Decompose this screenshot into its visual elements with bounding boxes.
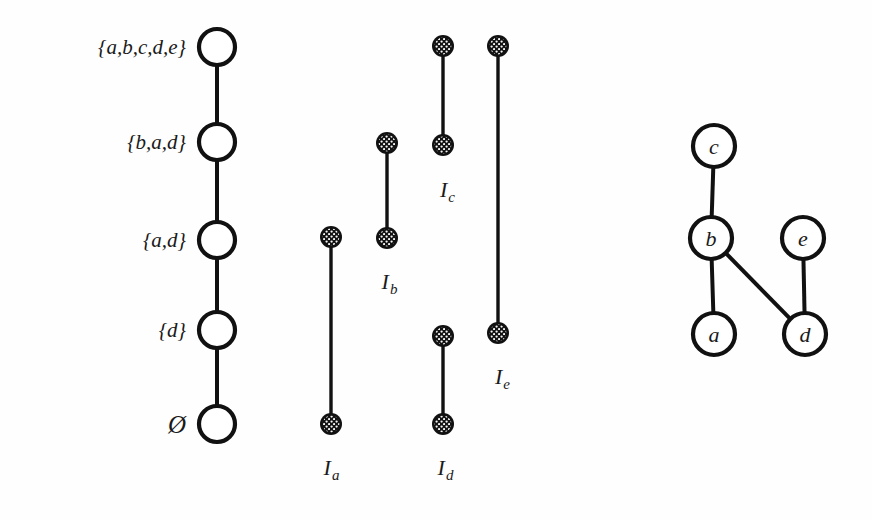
chain-node-label: {a,d}	[143, 230, 186, 251]
interval-endpoint-dot-texture	[323, 416, 340, 433]
interval-layer	[320, 35, 509, 435]
interval-label-letter: I	[440, 177, 447, 202]
interval-endpoint-dot-texture	[379, 135, 396, 152]
figure-svg	[0, 0, 872, 520]
interval-endpoint-dot-texture	[435, 137, 452, 154]
graph-edge[interactable]	[712, 258, 714, 314]
chain-node-label: Ø	[168, 412, 186, 437]
interval-label-subscript: c	[448, 189, 455, 205]
interval-label-subscript: b	[390, 281, 398, 297]
interval-label-letter: I	[495, 364, 502, 389]
interval-endpoint-dot-texture	[490, 38, 507, 55]
graph-edge[interactable]	[803, 258, 804, 314]
graph-node-label-a: a	[709, 324, 720, 346]
interval-label-letter: I	[324, 455, 331, 480]
chain-node[interactable]	[199, 29, 235, 65]
graph-edge[interactable]	[712, 166, 714, 218]
graph-node-label-b: b	[706, 228, 717, 250]
chain-layer	[199, 29, 235, 442]
chain-node-label: {d}	[159, 320, 186, 341]
figure-canvas: {a,b,c,d,e}{b,a,d}{a,d}{d}ØIaIbIcIdIecbe…	[0, 0, 872, 520]
interval-label-subscript: a	[332, 467, 340, 483]
interval-label-subscript: d	[446, 467, 454, 483]
interval-label-Ia: Ia	[324, 457, 339, 479]
interval-label-letter: I	[438, 455, 445, 480]
chain-node-label: {a,b,c,d,e}	[98, 37, 186, 58]
chain-node[interactable]	[199, 406, 235, 442]
chain-node[interactable]	[199, 124, 235, 160]
interval-label-Ie: Ie	[495, 366, 509, 388]
interval-endpoint-dot-texture	[379, 230, 396, 247]
graph-node-label-c: c	[709, 136, 719, 158]
interval-label-Ib: Ib	[382, 271, 397, 293]
chain-node[interactable]	[199, 312, 235, 348]
interval-endpoint-dot-texture	[435, 328, 452, 345]
graph-node-label-e: e	[798, 228, 808, 250]
interval-label-Ic: Ic	[440, 179, 454, 201]
graph-node-label-d: d	[800, 324, 811, 346]
interval-endpoint-dot-texture	[435, 38, 452, 55]
interval-endpoint-dot-texture	[490, 325, 507, 342]
interval-label-subscript: e	[503, 376, 510, 392]
interval-endpoint-dot-texture	[323, 229, 340, 246]
graph-edge[interactable]	[725, 252, 791, 319]
interval-label-letter: I	[382, 269, 389, 294]
chain-node-label: {b,a,d}	[127, 132, 186, 153]
chain-node[interactable]	[199, 222, 235, 258]
interval-label-Id: Id	[438, 457, 453, 479]
interval-endpoint-dot-texture	[435, 416, 452, 433]
